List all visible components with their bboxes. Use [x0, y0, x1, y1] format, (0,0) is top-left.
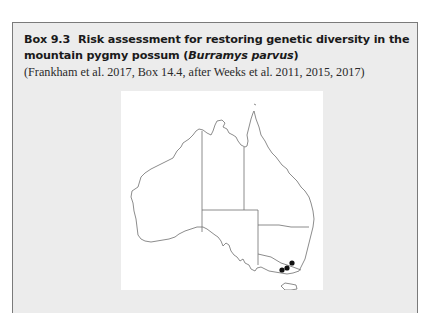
box-heading: Box 9.3Risk assessment for restoring gen…: [24, 32, 414, 64]
mainland-coastline: [131, 111, 314, 274]
population-marker: [289, 260, 294, 265]
box-number: Box 9.3: [24, 33, 70, 46]
box-citation: (Frankham et al. 2017, Box 14.4, after W…: [24, 65, 365, 79]
box-title-end: ): [294, 49, 299, 62]
population-marker: [279, 267, 284, 272]
australia-map-figure: [121, 91, 323, 290]
population-marker: [284, 265, 289, 270]
border-qld-nsw: [258, 225, 309, 227]
tasmania-outline: [281, 283, 297, 290]
text-box-9-3: Box 9.3Risk assessment for restoring gen…: [12, 22, 418, 313]
australia-map-icon: [121, 91, 323, 290]
border-nsw-vic: [258, 254, 301, 270]
island-cape-york: [254, 104, 256, 105]
species-name: Burramys parvus: [188, 49, 293, 62]
